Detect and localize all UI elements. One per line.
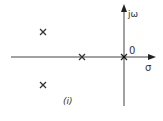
s-plane-plot bbox=[0, 0, 163, 121]
origin-label: 0 bbox=[129, 46, 135, 56]
figure-caption: (i) bbox=[63, 97, 73, 106]
real-axis-arrow-icon bbox=[148, 54, 156, 60]
imaginary-axis-label: jω bbox=[128, 10, 138, 19]
pole-upper-left-icon bbox=[40, 29, 46, 35]
imaginary-axis-arrow-icon bbox=[121, 4, 127, 12]
origin-dot bbox=[123, 56, 126, 59]
pole-lower-left-icon bbox=[40, 82, 46, 88]
real-axis-label: σ bbox=[145, 63, 151, 73]
